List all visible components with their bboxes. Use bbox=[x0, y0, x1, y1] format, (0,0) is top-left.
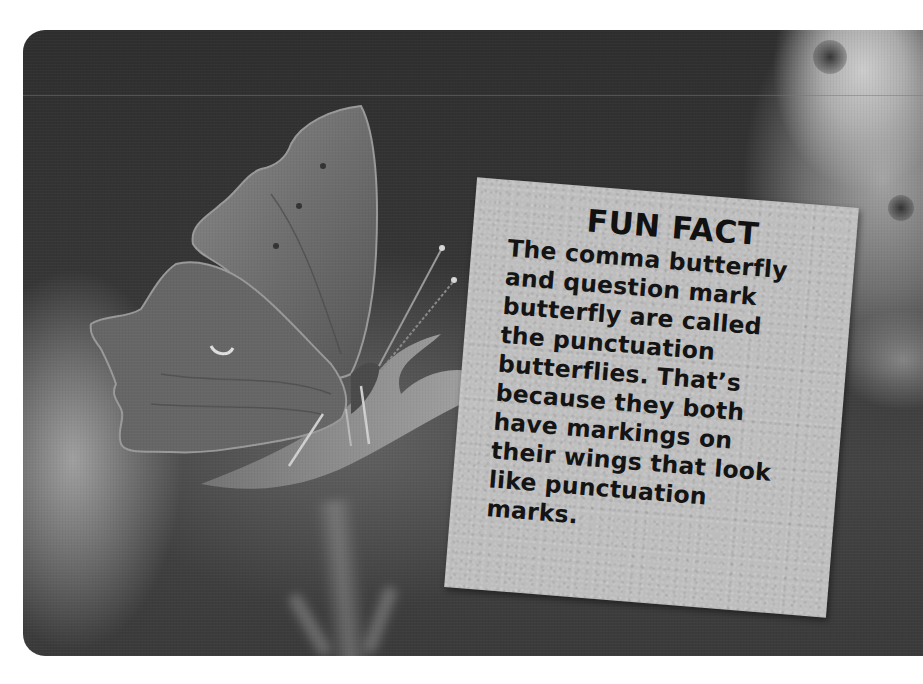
blurred-flower-center bbox=[813, 40, 847, 74]
plant-stem-branch bbox=[361, 585, 398, 656]
page: FUN FACT The comma butterfly and questio… bbox=[0, 0, 923, 684]
butterfly-illustration bbox=[61, 74, 491, 514]
fun-fact-body: The comma butterfly and question mark bu… bbox=[485, 234, 836, 549]
fun-fact-card: FUN FACT The comma butterfly and questio… bbox=[444, 177, 859, 617]
blurred-flower-center bbox=[888, 195, 914, 221]
